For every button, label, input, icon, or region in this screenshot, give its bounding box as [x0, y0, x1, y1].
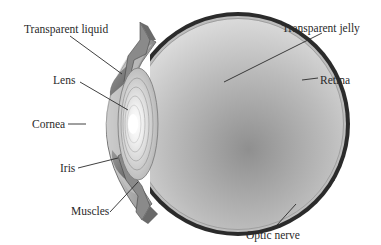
label-lens: Lens: [53, 74, 76, 86]
label-cornea: Cornea: [32, 118, 65, 130]
label-optic-nerve: Optic nerve: [246, 229, 300, 242]
label-transparent-jelly: Transparent jelly: [282, 22, 360, 35]
label-transparent-liquid: Transparent liquid: [24, 23, 108, 36]
vitreous-body: [133, 19, 343, 229]
front-segment: [106, 22, 158, 224]
eye-diagram: Transparent liquid Lens Cornea Iris Musc…: [0, 0, 381, 245]
label-iris: Iris: [60, 162, 76, 174]
label-muscles: Muscles: [71, 205, 110, 217]
leader-transparent-liquid: [70, 36, 122, 74]
label-retina: Retina: [320, 74, 350, 86]
